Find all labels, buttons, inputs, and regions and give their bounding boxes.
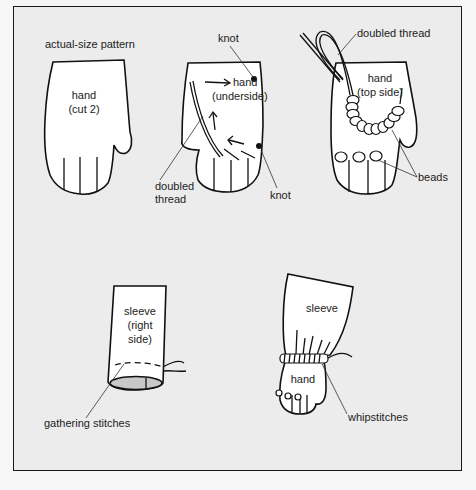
bead-icon xyxy=(285,393,291,399)
callout-whipstitches: whipstitches xyxy=(347,411,408,423)
hand-attached-shape xyxy=(280,362,326,414)
top-side-label-1: hand xyxy=(368,72,392,84)
callout-beads: beads xyxy=(418,171,448,183)
leader-line xyxy=(261,150,277,188)
whipstitch-band xyxy=(280,354,328,363)
sleeve-attached-shape xyxy=(283,274,353,356)
attach-sleeve-label: sleeve xyxy=(306,302,338,314)
thread-end xyxy=(163,362,184,367)
sleeve-label-1: sleeve xyxy=(124,305,156,317)
sleeve-label-2: (right xyxy=(127,319,152,331)
panel-sleeve-attach: sleeve hand whipstitches xyxy=(276,274,408,423)
callout-doubled-thread: doubled thread xyxy=(357,27,430,39)
cuff-opening xyxy=(110,377,162,390)
callout-knot-bottom: knot xyxy=(270,189,291,201)
underside-label-1: hand xyxy=(233,76,257,88)
callout-knot-top: knot xyxy=(218,32,239,44)
panel-sleeve-gathering: sleeve (right side) gathering stitches xyxy=(44,286,186,429)
leader-line xyxy=(86,364,124,418)
sleeve-label-3: side) xyxy=(128,333,152,345)
diagram-canvas: actual-size pattern hand (cut 2) xyxy=(0,0,476,490)
callout-thread: thread xyxy=(155,193,186,205)
leader-line xyxy=(338,34,356,55)
panel-underside: hand (underside) knot doubled thread kno… xyxy=(155,32,291,205)
bead-icon xyxy=(392,107,404,116)
callout-doubled: doubled xyxy=(155,180,194,192)
top-side-label-2: (top side) xyxy=(357,86,403,98)
attach-hand-label: hand xyxy=(291,373,315,385)
knot-icon xyxy=(256,143,262,149)
pattern-label-1: hand xyxy=(72,89,96,101)
bead-icon xyxy=(276,390,282,396)
bead-icon xyxy=(335,152,347,162)
underside-label-2: (underside) xyxy=(212,90,268,102)
panel-pattern: actual-size pattern hand (cut 2) xyxy=(45,38,135,194)
pattern-title: actual-size pattern xyxy=(45,38,135,50)
needle-icon xyxy=(303,33,343,80)
thread-end xyxy=(163,371,186,372)
panel-top-side: hand (top side) doubled thread beads xyxy=(300,27,448,194)
callout-gathering-stitches: gathering stitches xyxy=(44,417,131,429)
hand-pattern-shape xyxy=(45,60,132,194)
pattern-label-2: (cut 2) xyxy=(68,103,99,115)
bead-icon xyxy=(353,152,365,162)
bead-icon xyxy=(370,151,382,161)
bead-icon xyxy=(295,394,301,400)
